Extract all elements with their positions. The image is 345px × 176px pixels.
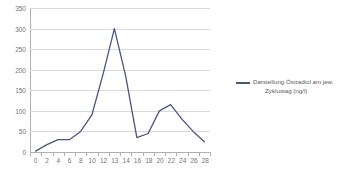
x-tick-label: 24 (177, 156, 188, 168)
x-tick-label: 16 (132, 156, 143, 168)
x-axis-tick-labels: 024681012131416182022242628 (30, 156, 211, 168)
x-tick-label: 13 (109, 156, 120, 168)
legend-label-line-1: Darstellung Östradiol am jew. (253, 78, 333, 85)
x-tick-label: 22 (166, 156, 177, 168)
y-tick-label: 300 (2, 25, 26, 32)
series-line-estradiol (36, 29, 205, 152)
x-tick-label: 12 (98, 156, 109, 168)
x-tick-label: 4 (53, 156, 64, 168)
plot-area (30, 8, 210, 152)
legend-color-swatch (236, 82, 250, 84)
x-tick-label: 14 (121, 156, 132, 168)
legend: Darstellung Östradiol am jew. Zyklustag … (236, 78, 342, 95)
x-tick-label: 18 (143, 156, 154, 168)
x-tick-label: 0 (30, 156, 41, 168)
y-tick-label: 350 (2, 5, 26, 12)
y-tick-label: 250 (2, 46, 26, 53)
y-tick-label: 0 (2, 149, 26, 156)
x-tick-label: 20 (154, 156, 165, 168)
y-tick-label: 50 (2, 128, 26, 135)
legend-label-line-2: Zyklustag (ng/l) (253, 87, 333, 96)
x-tick-label: 10 (87, 156, 98, 168)
x-tick-label: 8 (75, 156, 86, 168)
y-tick-label: 200 (2, 66, 26, 73)
x-tick-label: 2 (41, 156, 52, 168)
x-tick-label: 26 (188, 156, 199, 168)
x-tick-label: 6 (64, 156, 75, 168)
chart-container: 050100150200250300350 024681012131416182… (0, 0, 345, 176)
y-tick-label: 150 (2, 87, 26, 94)
legend-item-label: Darstellung Östradiol am jew. Zyklustag … (253, 78, 333, 95)
y-axis-tick-labels: 050100150200250300350 (0, 8, 26, 152)
x-tick-label: 28 (200, 156, 211, 168)
series-line-chart (30, 8, 210, 152)
y-tick-label: 100 (2, 107, 26, 114)
